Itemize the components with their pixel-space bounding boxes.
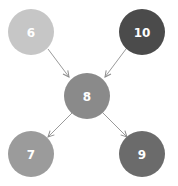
graph-diagram: 6 10 8 7 9 bbox=[0, 0, 178, 186]
node-10-label: 10 bbox=[134, 26, 151, 40]
node-6[interactable]: 6 bbox=[8, 9, 54, 55]
node-6-label: 6 bbox=[27, 26, 35, 40]
edge-10-to-8 bbox=[105, 49, 126, 77]
node-8-label: 8 bbox=[83, 90, 91, 104]
node-7[interactable]: 7 bbox=[8, 131, 54, 177]
node-9-label: 9 bbox=[138, 148, 146, 162]
edge-8-to-7 bbox=[48, 113, 72, 137]
node-7-label: 7 bbox=[27, 148, 35, 162]
edge-8-to-9 bbox=[103, 113, 127, 137]
node-10[interactable]: 10 bbox=[119, 9, 165, 55]
node-8[interactable]: 8 bbox=[64, 73, 110, 119]
node-9[interactable]: 9 bbox=[119, 131, 165, 177]
edge-6-to-8 bbox=[48, 49, 69, 77]
